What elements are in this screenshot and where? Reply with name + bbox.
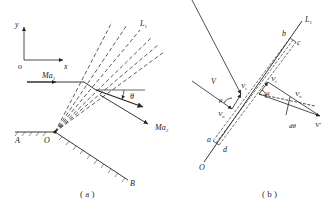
mu2-label: μ <box>266 89 270 97</box>
point-o-label: O <box>44 136 50 145</box>
caption-a: ( a ) <box>80 189 95 199</box>
vel-vt-label: Vt <box>241 82 247 91</box>
point-a-label: a <box>207 135 211 144</box>
dtheta-label: dθ <box>289 122 297 130</box>
axis-y-label: y <box>14 20 19 29</box>
theta-arc <box>122 90 124 99</box>
vel-vn-prime-label: Vn <box>295 90 302 99</box>
wall-hatching <box>15 132 125 182</box>
point-b-label: b <box>282 29 286 38</box>
figure-b: L1 b c a d O V Vt μ Vn <box>192 0 321 199</box>
outgoing-flow-arrow-1 <box>96 90 143 107</box>
fan-line-label: L1 <box>139 19 147 29</box>
point-o-label: O <box>199 163 205 172</box>
figure-a: y x o Ma1 Ma2 θ L1 <box>14 19 169 199</box>
mach-in-label: Ma1 <box>41 71 55 81</box>
wall <box>15 132 128 180</box>
expansion-fan <box>55 22 164 132</box>
outgoing-flow-arrow-2 <box>100 95 148 124</box>
mach-out-label: Ma2 <box>154 123 169 133</box>
line-l1-label: L1 <box>304 15 312 25</box>
coordinate-axes <box>24 27 63 60</box>
vel-v-prime-label: V' <box>315 121 321 129</box>
point-b-label: B <box>130 179 135 188</box>
vel-v-label: V <box>211 77 217 86</box>
caption-b: ( b ) <box>262 189 277 199</box>
vel-vt-prime-label: Vt <box>271 75 277 84</box>
vel-vn-label: Vn <box>218 110 225 119</box>
theta-label: θ <box>130 92 134 101</box>
mu1-label: μ <box>219 96 223 104</box>
velocity-triangle-upstream <box>192 0 241 109</box>
point-d-label: d <box>223 145 228 154</box>
control-volume <box>213 38 296 145</box>
expansion-fan-diagram: y x o Ma1 Ma2 θ L1 <box>0 0 333 216</box>
point-c-label: c <box>297 38 301 47</box>
origin-label: o <box>18 62 22 71</box>
point-a-label: A <box>14 136 20 145</box>
axis-x-label: x <box>63 62 68 71</box>
velocity-triangle-downstream <box>259 82 320 116</box>
